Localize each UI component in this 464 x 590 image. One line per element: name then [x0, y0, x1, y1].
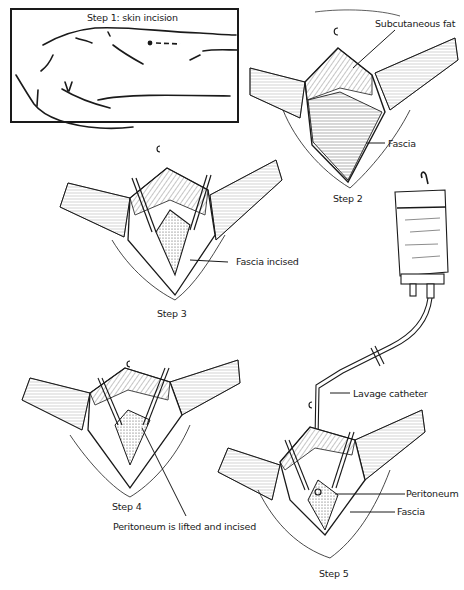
step3-label: Step 3	[157, 308, 187, 319]
step5-label: Step 5	[319, 568, 349, 579]
step4-drawing	[22, 360, 240, 497]
step2-label: Step 2	[333, 193, 363, 204]
lavage-catheter-label: Lavage catheter	[353, 388, 428, 399]
step1-label: Step 1: skin incision	[87, 12, 178, 23]
fascia-label-step5: Fascia	[397, 506, 425, 517]
step1-panel	[10, 8, 239, 123]
step2-drawing	[250, 10, 458, 188]
subcutaneous-fat-label: Subcutaneous fat	[375, 18, 455, 29]
lavage-bag	[395, 172, 448, 298]
step3-drawing	[60, 146, 282, 300]
peritoneum-lifted-label: Peritoneum is lifted and incised	[113, 521, 256, 532]
fascia-label-step2: Fascia	[388, 138, 416, 149]
step5-drawing	[218, 402, 425, 558]
fascia-incised-label: Fascia incised	[236, 256, 299, 267]
peritoneum-label-step5: Peritoneum	[406, 488, 458, 499]
step4-label: Step 4	[112, 501, 142, 512]
